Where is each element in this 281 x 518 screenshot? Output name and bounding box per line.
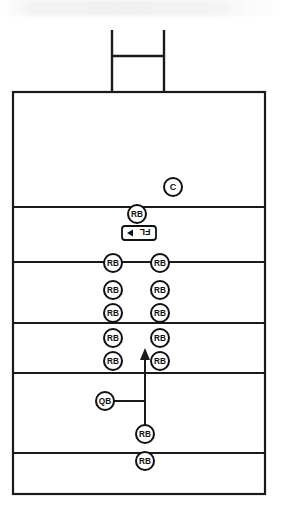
yard-lines bbox=[13, 207, 265, 453]
player-rb-right-5-label: RB bbox=[154, 357, 166, 366]
motion-arrow bbox=[140, 348, 150, 434]
player-rb-line-center-label: RB bbox=[131, 210, 143, 219]
player-rb-right-2[interactable]: RB bbox=[151, 281, 169, 299]
play-diagram-canvas: FL CRBRBRBRBRBRBRBRBRBRBRBQBRBRB bbox=[0, 0, 281, 518]
player-rb-right-4-label: RB bbox=[154, 334, 166, 343]
player-rb-left-5[interactable]: RB bbox=[104, 352, 122, 370]
player-rb-left-5-label: RB bbox=[107, 357, 119, 366]
flanker-label-box: FL bbox=[122, 226, 156, 240]
player-rb-line-center[interactable]: RB bbox=[128, 205, 146, 223]
player-rb-right-5[interactable]: RB bbox=[151, 352, 169, 370]
player-rb-bottom-1[interactable]: RB bbox=[136, 425, 154, 443]
player-center[interactable]: C bbox=[164, 178, 182, 196]
flanker-box-label: FL bbox=[139, 227, 150, 237]
goal-post bbox=[112, 30, 164, 92]
player-rb-right-1-label: RB bbox=[154, 259, 166, 268]
player-rb-bottom-1-label: RB bbox=[139, 430, 151, 439]
player-rb-left-3-label: RB bbox=[107, 309, 119, 318]
player-rb-right-4[interactable]: RB bbox=[151, 329, 169, 347]
player-rb-right-1[interactable]: RB bbox=[151, 254, 169, 272]
diagram-svg: FL CRBRBRBRBRBRBRBRBRBRBRBQBRBRB bbox=[0, 0, 281, 518]
motion-arrow-head bbox=[140, 348, 150, 360]
player-rb-left-4[interactable]: RB bbox=[104, 329, 122, 347]
player-rb-left-1[interactable]: RB bbox=[104, 254, 122, 272]
player-rb-right-3-label: RB bbox=[154, 309, 166, 318]
player-center-label: C bbox=[170, 182, 177, 192]
player-rb-left-3[interactable]: RB bbox=[104, 304, 122, 322]
player-rb-bottom-2[interactable]: RB bbox=[136, 452, 154, 470]
player-rb-right-3[interactable]: RB bbox=[151, 304, 169, 322]
player-rb-bottom-2-label: RB bbox=[139, 457, 151, 466]
player-quarterback-label: QB bbox=[99, 397, 111, 406]
player-rb-left-2-label: RB bbox=[107, 286, 119, 295]
player-rb-left-1-label: RB bbox=[107, 259, 119, 268]
player-rb-right-2-label: RB bbox=[154, 286, 166, 295]
player-rb-left-4-label: RB bbox=[107, 334, 119, 343]
player-quarterback[interactable]: QB bbox=[96, 392, 114, 410]
player-rb-left-2[interactable]: RB bbox=[104, 281, 122, 299]
